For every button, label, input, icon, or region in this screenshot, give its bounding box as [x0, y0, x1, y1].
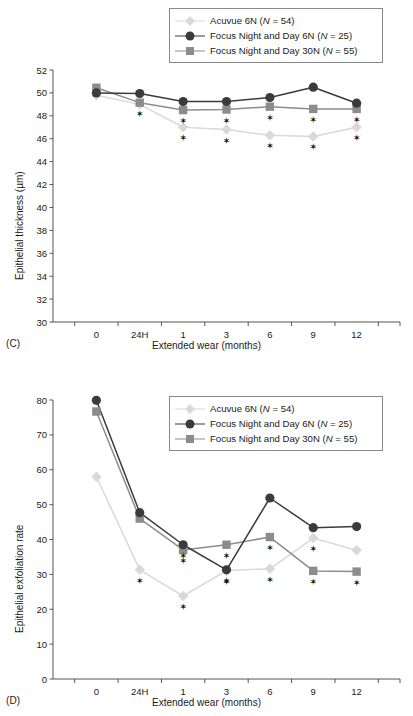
x-tick-label: 6: [267, 329, 272, 340]
x-tick-label: 3: [224, 686, 229, 697]
data-point-fnd6n-3: [222, 565, 231, 574]
y-tick-label: 40: [36, 534, 47, 545]
square-marker-icon: [175, 433, 205, 445]
significance-star-icon: ✶: [309, 576, 317, 587]
x-tick-label: 0: [94, 329, 99, 340]
data-point-acuvue-24H: [135, 565, 145, 575]
legend-item-square: Focus Night and Day 30N (N = 55): [175, 43, 375, 58]
significance-star-icon: ✶: [179, 132, 187, 143]
legend-item-label: Focus Night and Day 6N (N = 25): [210, 30, 352, 42]
x-tick-label: 9: [311, 686, 316, 697]
circle-marker-icon: [175, 30, 205, 42]
data-point-fnd6n-6: [265, 493, 274, 502]
significance-star-icon: ✶: [353, 114, 361, 125]
data-point-acuvue-6: [265, 130, 275, 140]
significance-star-icon: ✶: [266, 542, 274, 553]
significance-star-icon: ✶: [266, 140, 274, 151]
data-point-fnd30n-6: [266, 533, 274, 541]
significance-star-icon: ✶: [223, 135, 231, 146]
data-point-fnd30n-9: [309, 105, 317, 113]
significance-markers: ✶✶✶✶✶✶✶✶✶✶✶✶: [136, 542, 361, 612]
data-point-fnd6n-9: [309, 83, 318, 92]
legend-item-circle: Focus Night and Day 6N (N = 25): [175, 28, 375, 43]
data-point-acuvue-9: [308, 131, 318, 141]
panel-d: 01020304050607080024H136912✶✶✶✶✶✶✶✶✶✶✶✶ …: [0, 358, 413, 716]
y-tick-label: 36: [36, 248, 47, 259]
x-tick-label: 0: [94, 686, 99, 697]
data-point-fnd6n-0: [92, 88, 101, 97]
panel-d-tag: (D): [6, 695, 20, 706]
y-tick-label: 60: [36, 464, 47, 475]
data-point-fnd30n-3: [222, 541, 230, 549]
y-tick-label: 70: [36, 429, 47, 440]
significance-star-icon: ✶: [179, 555, 187, 566]
significance-markers: ✶✶✶✶✶✶✶✶✶✶✶: [136, 108, 361, 153]
data-point-fnd6n-3: [222, 97, 231, 106]
diamond-marker-icon: [175, 15, 205, 27]
significance-star-icon: ✶: [179, 601, 187, 612]
data-point-fnd6n-12: [352, 99, 361, 108]
significance-star-icon: ✶: [266, 112, 274, 123]
significance-star-icon: ✶: [223, 575, 231, 586]
significance-star-icon: ✶: [266, 574, 274, 585]
panel-d-y-axis-title: Epithelial exfoliation rate: [14, 525, 25, 633]
data-point-fnd30n-1: [179, 106, 187, 114]
significance-star-icon: ✶: [179, 115, 187, 126]
data-point-fnd6n-24H: [135, 89, 144, 98]
legend-item-circle: Focus Night and Day 6N (N = 25): [175, 416, 375, 431]
data-point-fnd6n-6: [265, 93, 274, 102]
legend-item-square: Focus Night and Day 30N (N = 55): [175, 431, 375, 446]
data-point-fnd6n-1: [179, 97, 188, 106]
data-point-fnd6n-24H: [135, 508, 144, 517]
data-point-fnd6n-1: [179, 540, 188, 549]
legend-item-diamond: Acuvue 6N (N = 54): [175, 13, 375, 28]
x-tick-label: 6: [267, 686, 272, 697]
y-tick-label: 50: [36, 499, 47, 510]
legend-item-diamond: Acuvue 6N (N = 54): [175, 401, 375, 416]
panel-c-tag: (C): [6, 338, 20, 349]
data-point-acuvue-6: [265, 564, 275, 574]
significance-star-icon: ✶: [309, 543, 317, 554]
square-marker-icon: [175, 45, 205, 57]
significance-star-icon: ✶: [353, 132, 361, 143]
figure-container: 303234363840424446485052024H136912✶✶✶✶✶✶…: [0, 0, 413, 716]
y-tick-label: 30: [36, 569, 47, 580]
y-tick-label: 42: [36, 179, 47, 190]
y-tick-label: 44: [36, 156, 47, 167]
data-point-acuvue-9: [308, 533, 318, 543]
x-tick-label: 24H: [131, 329, 149, 340]
panel-d-legend: Acuvue 6N (N = 54)Focus Night and Day 6N…: [169, 396, 383, 451]
legend-item-label: Focus Night and Day 30N (N = 55): [210, 433, 357, 445]
y-tick-label: 52: [36, 65, 47, 76]
y-tick-label: 40: [36, 202, 47, 213]
significance-star-icon: ✶: [309, 141, 317, 152]
data-point-fnd6n-9: [309, 523, 318, 532]
legend-item-label: Focus Night and Day 30N (N = 55): [210, 45, 357, 57]
data-point-fnd6n-12: [352, 522, 361, 531]
significance-star-icon: ✶: [136, 108, 144, 119]
data-point-fnd30n-12: [352, 567, 360, 575]
series-markers-fnd6n: [92, 83, 361, 108]
x-tick-label: 3: [224, 329, 229, 340]
data-point-acuvue-1: [178, 591, 188, 601]
y-tick-label: 48: [36, 110, 47, 121]
y-tick-label: 30: [36, 317, 47, 328]
circle-marker-icon: [175, 418, 205, 430]
x-tick-label: 24H: [131, 686, 149, 697]
panel-c: 303234363840424446485052024H136912✶✶✶✶✶✶…: [0, 0, 413, 358]
x-tick-label: 9: [311, 329, 316, 340]
y-tick-label: 20: [36, 604, 47, 615]
legend-item-label: Focus Night and Day 6N (N = 25): [210, 418, 352, 430]
y-tick-label: 34: [36, 271, 47, 282]
data-point-acuvue-12: [351, 545, 361, 555]
y-tick-label: 46: [36, 133, 47, 144]
panel-d-x-axis-title: Extended wear (months): [0, 697, 413, 708]
significance-star-icon: ✶: [136, 575, 144, 586]
significance-star-icon: ✶: [223, 550, 231, 561]
data-point-fnd30n-6: [266, 102, 274, 110]
data-point-fnd6n-0: [92, 396, 101, 405]
legend-item-label: Acuvue 6N (N = 54): [210, 403, 295, 415]
panel-c-y-axis-title: Epithelial thickness (µm): [14, 171, 25, 280]
data-point-fnd30n-9: [309, 567, 317, 575]
y-tick-label: 38: [36, 225, 47, 236]
